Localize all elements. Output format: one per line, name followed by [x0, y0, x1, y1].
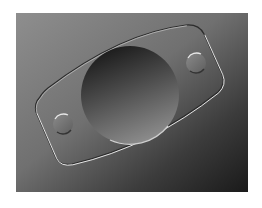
boss-right — [186, 53, 206, 73]
embossed-plate-image — [0, 0, 262, 208]
boss-left — [53, 114, 73, 134]
